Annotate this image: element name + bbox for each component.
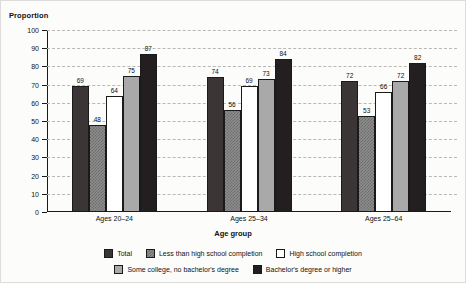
legend-item[interactable]: Less than high school completion: [146, 249, 263, 258]
legend-swatch-icon: [276, 249, 285, 258]
y-axis-tick-label: 50: [31, 118, 39, 125]
y-axis-tick-label: 40: [31, 136, 39, 143]
bar: 84: [275, 59, 292, 212]
bar-value-label: 64: [111, 87, 118, 94]
legend-item[interactable]: Total: [104, 249, 132, 258]
chart-legend: TotalLess than high school completionHig…: [1, 249, 465, 281]
y-axis-tick-label: 100: [27, 27, 39, 34]
x-axis-categories: Ages 20–24Ages 25–34Ages 25–64: [47, 215, 451, 222]
legend-label: Less than high school completion: [159, 250, 263, 257]
bar: 82: [409, 63, 426, 212]
legend-swatch-icon: [114, 265, 123, 274]
bar-value-label: 84: [279, 50, 286, 57]
y-axis-tick-label: 80: [31, 63, 39, 70]
legend-item[interactable]: Some college, no bachelor's degree: [114, 265, 238, 274]
bar: 56: [224, 110, 241, 212]
bar-value-label: 53: [363, 107, 370, 114]
legend-label: High school completion: [289, 250, 361, 257]
bar-value-label: 69: [245, 77, 252, 84]
bar: 72: [341, 81, 358, 212]
y-axis-tick-label: 90: [31, 45, 39, 52]
bar-value-label: 75: [128, 67, 135, 74]
bar-value-label: 82: [414, 54, 421, 61]
legend-label: Bachelor's degree or higher: [266, 266, 352, 273]
legend-swatch-icon: [104, 249, 113, 258]
bar-groups: 694864758774566973847253667282: [47, 30, 451, 212]
legend-row: TotalLess than high school completionHig…: [1, 249, 465, 258]
bar: 73: [258, 79, 275, 212]
x-axis-tick-label: Ages 20–24: [47, 215, 182, 222]
bar: 66: [375, 92, 392, 212]
legend-swatch-icon: [146, 249, 155, 258]
legend-row: Some college, no bachelor's degreeBachel…: [1, 265, 465, 274]
bar-value-label: 48: [94, 116, 101, 123]
y-axis-tick-label: 20: [31, 172, 39, 179]
x-axis-tick-label: Ages 25–34: [182, 215, 317, 222]
bar-value-label: 56: [228, 101, 235, 108]
bar: 53: [358, 116, 375, 212]
bar-value-label: 87: [145, 45, 152, 52]
y-axis-label: Proportion: [9, 11, 48, 20]
plot-area: 1009080706050403020100 69486475877456697…: [47, 30, 451, 212]
bar-value-label: 72: [346, 72, 353, 79]
chart-figure: Proportion 1009080706050403020100 694864…: [0, 0, 466, 283]
bar: 74: [207, 77, 224, 212]
bar: 69: [72, 86, 89, 212]
bar: 69: [241, 86, 258, 212]
bar: 48: [89, 125, 106, 212]
y-axis-tick-label: 10: [31, 190, 39, 197]
x-axis-label: Age group: [1, 229, 465, 238]
bar-value-label: 66: [380, 83, 387, 90]
legend-label: Total: [117, 250, 132, 257]
bar-value-label: 74: [211, 68, 218, 75]
bar: 72: [392, 81, 409, 212]
y-axis-tick-label: 30: [31, 154, 39, 161]
y-axis-tick-label: 70: [31, 81, 39, 88]
bar-group: 7253667282: [316, 30, 451, 212]
bar-value-label: 72: [397, 72, 404, 79]
y-axis-tick-label: 60: [31, 99, 39, 106]
legend-swatch-icon: [253, 265, 262, 274]
bar-value-label: 69: [77, 77, 84, 84]
legend-label: Some college, no bachelor's degree: [127, 266, 238, 273]
y-axis-tick-label: 0: [35, 209, 39, 216]
bar: 75: [123, 76, 140, 213]
bar-group: 7456697384: [182, 30, 317, 212]
y-axis-tick: [42, 212, 47, 213]
bar-value-label: 73: [262, 70, 269, 77]
bar-group: 6948647587: [47, 30, 182, 212]
legend-item[interactable]: High school completion: [276, 249, 361, 258]
bar: 87: [140, 54, 157, 212]
bar: 64: [106, 96, 123, 212]
legend-item[interactable]: Bachelor's degree or higher: [253, 265, 352, 274]
x-axis-tick-label: Ages 25–64: [316, 215, 451, 222]
